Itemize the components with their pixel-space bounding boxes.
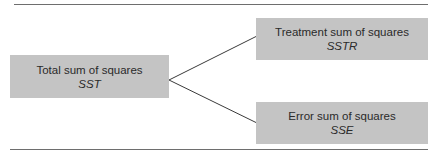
- error-sum-of-squares-box: Error sum of squares SSE: [256, 102, 428, 144]
- root-label: Total sum of squares: [36, 63, 142, 77]
- treatment-sum-of-squares-box: Treatment sum of squares SSTR: [256, 18, 428, 60]
- connector-to-treatment: [169, 36, 257, 80]
- connector-to-error: [169, 80, 257, 123]
- total-sum-of-squares-box: Total sum of squares SST: [10, 55, 169, 98]
- root-symbol: SST: [78, 77, 100, 91]
- treatment-label: Treatment sum of squares: [275, 25, 409, 39]
- error-symbol: SSE: [330, 123, 353, 137]
- treatment-symbol: SSTR: [327, 39, 358, 53]
- error-label: Error sum of squares: [288, 109, 395, 123]
